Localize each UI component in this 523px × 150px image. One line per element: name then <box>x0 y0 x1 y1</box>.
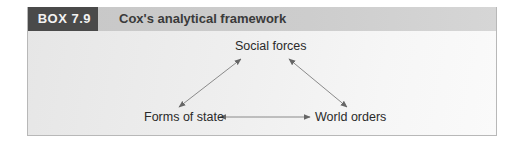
arrow-social-world <box>289 59 347 107</box>
node-forms-of-state: Forms of state <box>144 110 224 124</box>
framework-diagram <box>0 0 523 150</box>
node-world-orders: World orders <box>315 110 386 124</box>
arrow-social-forms <box>179 59 241 107</box>
node-social-forces: Social forces <box>235 39 307 53</box>
